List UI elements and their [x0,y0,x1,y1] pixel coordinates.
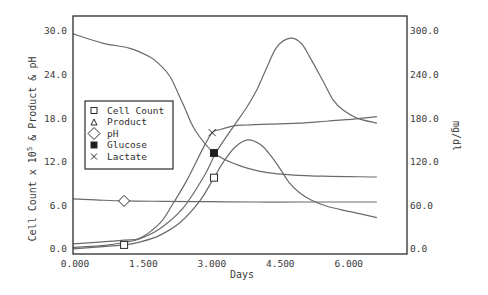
marker-ph [119,195,130,206]
x-axis-ticks: 0.0001.5003.0004.5006.000 [61,258,364,269]
legend-label: Glucose [107,139,147,150]
y-tick-label-left: 30.0 [44,25,67,36]
x-axis-label: Days [230,269,254,280]
line-chart: 0.0001.5003.0004.5006.000 0.06.012.018.0… [0,0,488,295]
y-tick-label-right: 300.0 [410,25,439,36]
y-tick-label-left: 0.0 [50,243,67,254]
marker-cell-count [121,241,128,248]
x-tick-label: 4.500 [266,258,295,269]
y-tick-label-left: 18.0 [44,113,67,124]
y-axis-right-label: mg/dl [451,121,462,151]
y-tick-label-right: 120.0 [410,156,439,167]
y-tick-label-left: 6.0 [50,200,67,211]
chart-figure: 0.0001.5003.0004.5006.000 0.06.012.018.0… [0,0,488,295]
y-axis-left-label-main: Cell Count x 10 [27,151,38,241]
marker-cell-count [210,174,217,181]
marker-glucose [210,149,217,156]
y-tick-label-right: 0.0 [410,243,427,254]
y-tick-label-left: 12.0 [44,156,67,167]
marker-lactate [209,129,216,136]
x-tick-label: 3.000 [198,258,227,269]
y-tick-label-left: 24.0 [44,69,67,80]
y-tick-label-right: 180.0 [410,113,439,124]
y-axis-left-label: Cell Count x 105 & Product & pH [26,57,38,242]
y-axis-left-label-rest: & Product & pH [27,57,38,147]
legend-label: Cell Count [107,105,164,116]
legend-label: pH [107,128,119,139]
x-tick-label: 0.000 [61,258,90,269]
legend-label: Product [107,116,147,127]
legend-cell-count-icon [91,108,97,114]
y-axis-left-ticks: 0.06.012.018.024.030.0 [44,25,67,254]
legend-glucose-icon [91,142,97,148]
y-tick-label-right: 60.0 [410,200,433,211]
y-tick-label-right: 240.0 [410,69,439,80]
legend-label: Lactate [107,151,147,162]
y-axis-right-ticks: 0.060.0120.0180.0240.0300.0 [410,25,439,254]
legend: Cell CountProductpHGlucoseLactate [85,101,173,169]
x-tick-label: 1.500 [129,258,158,269]
x-tick-label: 6.000 [334,258,363,269]
